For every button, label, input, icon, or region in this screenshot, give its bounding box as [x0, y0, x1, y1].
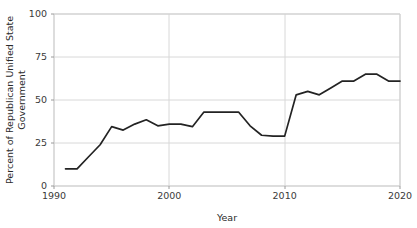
ytick-label-50: 50: [35, 94, 47, 105]
y-axis-title-line2: Government: [16, 70, 27, 130]
line-chart-svg: 0255075100 1990200020102020 Year Percent…: [0, 0, 417, 228]
ytick-label-100: 100: [29, 8, 47, 19]
y-axis-title-line1: Percent of Republican Unified State: [4, 16, 15, 184]
xtick-label-2020: 2020: [388, 190, 412, 201]
x-axis-title: Year: [216, 212, 237, 223]
y-tick-labels: 0255075100: [29, 8, 47, 191]
xtick-label-2000: 2000: [157, 190, 181, 201]
xtick-label-2010: 2010: [273, 190, 297, 201]
xtick-label-1990: 1990: [42, 190, 66, 201]
chart-figure: 0255075100 1990200020102020 Year Percent…: [0, 0, 417, 228]
ytick-label-75: 75: [35, 51, 47, 62]
x-tick-labels: 1990200020102020: [42, 190, 412, 201]
ytick-label-25: 25: [35, 137, 47, 148]
